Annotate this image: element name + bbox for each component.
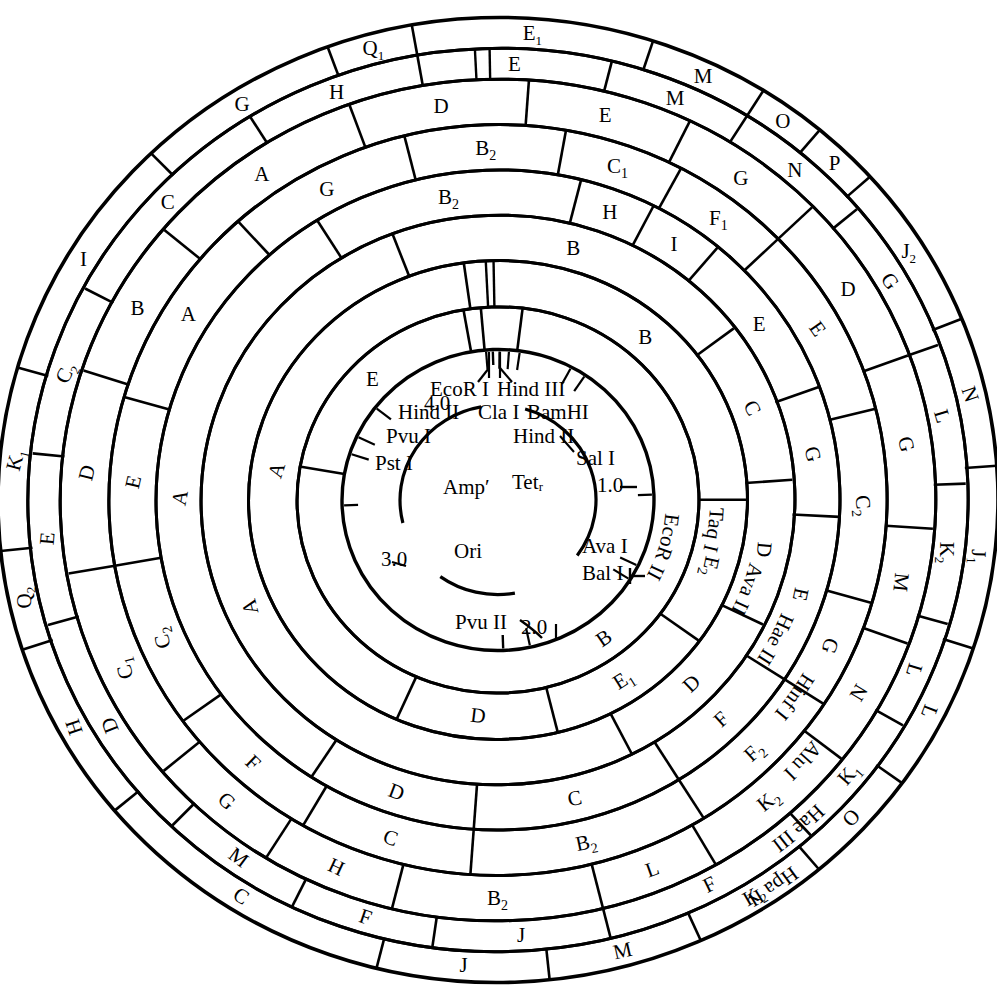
segment-divider (404, 136, 415, 180)
segment-divider (917, 615, 948, 623)
segment-divider (830, 409, 876, 420)
fragment-label: E (804, 317, 831, 341)
segment-divider (934, 484, 966, 485)
fragment-label: B2 (487, 886, 508, 913)
fragment-label: M (666, 86, 685, 110)
fragment-label: F2 (739, 736, 771, 769)
fragment-label: J1 (964, 549, 991, 564)
origin-tick (486, 261, 488, 307)
site-tick (377, 409, 391, 420)
segment-divider (799, 130, 820, 154)
coordinate-2-0: 2.0 (521, 615, 547, 639)
segment-divider (464, 310, 472, 352)
segment-divider (238, 221, 269, 255)
fragment-label: A (236, 596, 263, 617)
site-label-hind-iii: Hind III (497, 377, 565, 401)
segment-divider (744, 239, 778, 271)
segment-divider (908, 345, 938, 356)
fragment-label: H (324, 853, 348, 881)
segment-divider (696, 328, 734, 355)
segment-divider (778, 207, 812, 239)
site-tick (508, 352, 509, 369)
ring-inner-circle (60, 79, 936, 921)
fragment-label: B (566, 236, 580, 260)
segment-divider (397, 676, 417, 718)
segment-divider (301, 467, 344, 474)
segment-divider (470, 829, 473, 874)
fragment-label: J (460, 953, 468, 977)
fragment-label: J2 (901, 239, 916, 266)
site-label-pst-i: Pst I (375, 451, 413, 475)
fragment-label: C (738, 396, 766, 419)
fragment-label: M (694, 64, 713, 88)
fragment-label: E (599, 103, 612, 127)
segment-divider (570, 180, 581, 224)
segment-divider (183, 694, 221, 721)
fragment-label: E (35, 531, 60, 546)
segment-divider (793, 515, 840, 517)
fragment-label: D (752, 541, 777, 558)
segment-divider (864, 356, 908, 372)
gene-label-ori: Ori (454, 539, 482, 563)
segment-divider (124, 397, 169, 409)
fragment-label: F (356, 904, 375, 930)
fragment-label: C (161, 190, 175, 214)
fragment-label: F (240, 750, 265, 775)
segment-divider (798, 846, 819, 870)
fragment-label: C1 (607, 154, 628, 181)
fragment-label: K2 (752, 784, 786, 819)
fragment-label: M (888, 572, 914, 593)
fragment-label: L (901, 660, 928, 679)
ring-ecor-ii: BEEcoR II (297, 307, 699, 693)
segment-divider (84, 370, 129, 384)
ring-outer-circle (249, 261, 748, 740)
fragment-label: E (788, 586, 814, 604)
site-label-bamhi: BamHI (527, 400, 589, 424)
segment-divider (746, 90, 763, 116)
site-tick (359, 437, 375, 444)
ring-hpa-ii: IGQ1E1MOPJ2NJ1LOK2MJCHQ2K1Hpa II (0, 17, 997, 982)
segment-divider (292, 878, 306, 906)
fragment-label: C (565, 785, 584, 811)
segment-divider (610, 713, 631, 753)
fragment-label: E (120, 473, 146, 491)
fragment-label: A (254, 162, 270, 186)
segment-divider (603, 908, 611, 938)
ring-inner-circle (109, 125, 887, 876)
fragment-label: M (611, 937, 635, 965)
fragment-label: N (844, 680, 872, 705)
segment-divider (311, 739, 337, 777)
site-label-bal-i: Bal I (582, 561, 623, 585)
segment-divider (846, 177, 870, 198)
segment-divider (932, 319, 962, 331)
ori-arc (440, 577, 515, 595)
fragment-label: Q2 (12, 586, 40, 609)
fragment-label: G (893, 434, 920, 455)
ring-inner-circle (249, 261, 748, 740)
fragment-label: C2 (847, 494, 876, 517)
fragment-label: L (642, 856, 662, 883)
fragment-label: B2 (438, 185, 459, 212)
gene-label-amp: Amp′ (443, 475, 490, 499)
rings-layer: BEEcoR IIBE2E1DATaq IBCDDAAva IIB2HIEGEF… (0, 17, 997, 982)
fragment-label: I (671, 232, 678, 256)
segment-divider (328, 47, 339, 76)
segment-divider (173, 803, 195, 825)
ring-inner-circle (297, 307, 699, 693)
segment-divider (679, 780, 704, 818)
fragment-label: C (229, 882, 254, 910)
origin-marker (475, 48, 495, 307)
segment-divider (745, 480, 792, 483)
segment-divider (85, 288, 113, 302)
enzyme-name: Hpa II (744, 862, 803, 912)
fragment-label: O (775, 109, 790, 133)
segment-divider (376, 938, 384, 968)
segment-divider (22, 640, 52, 650)
fragment-label: P (829, 151, 841, 175)
segment-divider (48, 616, 79, 625)
restriction-site-ticks (352, 351, 637, 645)
segment-divider (659, 168, 681, 208)
segment-divider (267, 819, 292, 858)
segment-divider (688, 247, 718, 282)
fragment-label: H (60, 716, 88, 738)
